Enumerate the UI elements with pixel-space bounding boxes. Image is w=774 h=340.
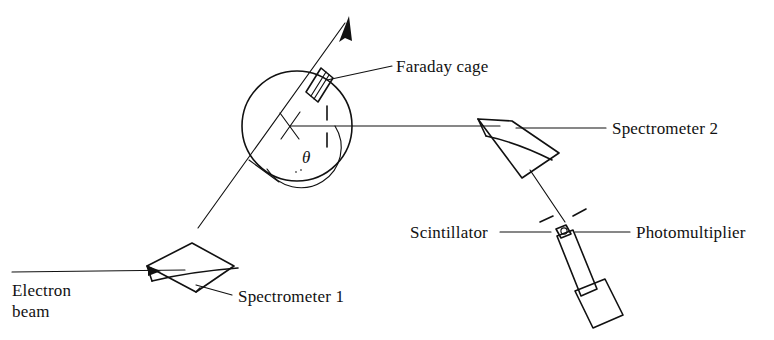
label-spectrometer-2: Spectrometer 2 [612,118,718,139]
label-spectrometer-1: Spectrometer 1 [238,286,344,307]
faraday-cage-leader [327,66,392,80]
spectrometer-1-magnet [147,243,238,292]
diagram-canvas [0,0,774,340]
scattering-apparatus-diagram: Faraday cage Spectrometer 2 Scintillator… [0,0,774,340]
label-electron-beam-line1: Electron [12,280,71,301]
label-faraday-cage: Faraday cage [396,56,489,77]
spectrometer-2-exit-line [530,170,565,222]
spectrometer-1-leader [196,285,232,295]
label-electron-beam-line2: beam [12,301,50,322]
chamber-dots [295,169,302,173]
chamber-entry-tick [249,160,279,182]
photomultiplier-assembly [540,209,623,328]
label-photomultiplier: Photomultiplier [636,222,746,243]
label-scattering-angle-theta: θ [302,147,311,168]
label-scintillator: Scintillator [410,222,488,243]
